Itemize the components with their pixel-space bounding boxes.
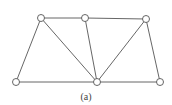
graph-edge (41, 18, 97, 82)
graph-edges (16, 18, 160, 82)
graph-edge (16, 18, 41, 82)
graph-node (38, 15, 45, 22)
graph-node (94, 79, 101, 86)
graph-node (13, 79, 20, 86)
graph-edge (85, 18, 146, 19)
figure-caption: (a) (0, 91, 172, 102)
graph-node (143, 16, 150, 23)
graph-diagram (0, 0, 172, 105)
graph-edge (97, 19, 146, 82)
graph-edge (85, 18, 97, 82)
graph-edge (146, 19, 160, 82)
graph-node (82, 15, 89, 22)
graph-node (157, 79, 164, 86)
